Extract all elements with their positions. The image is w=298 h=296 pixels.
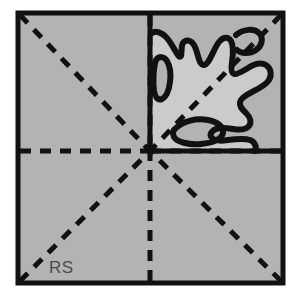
figure-label-rs: RS — [49, 258, 74, 277]
symmetry-figure: RS — [0, 0, 298, 296]
figure-root: RS — [0, 0, 298, 296]
